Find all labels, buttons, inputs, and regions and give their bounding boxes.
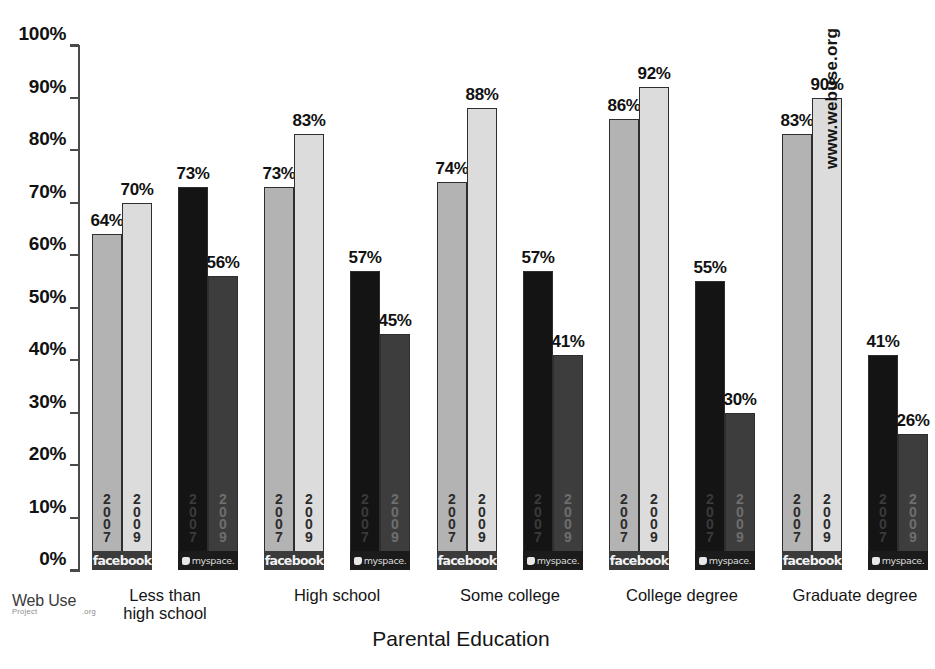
bar-value-label: 70%: [121, 180, 154, 200]
bar-value-label: 74%: [436, 159, 469, 179]
plot-area: 64%2 0 0 770%2 0 0 9facebook73%2 0 0 756…: [78, 45, 793, 570]
y-tick-label: 0%: [0, 548, 66, 570]
bar-facebook-2007[interactable]: 64%2 0 0 7: [92, 234, 122, 570]
logo-project-text: Project: [12, 607, 37, 616]
bar-value-label: 92%: [638, 64, 671, 84]
bar-myspace-2009[interactable]: 26%2 0 0 9: [898, 434, 928, 571]
website-watermark: www.webuse.org: [822, 28, 848, 169]
facebook-logo-text: facebook: [93, 553, 152, 568]
facebook-logo-text: facebook: [265, 553, 324, 568]
bar-value-label: 73%: [263, 164, 296, 184]
bar-year-label: 2 0 0 7: [265, 493, 293, 543]
y-tick-label-wrap: 80%: [0, 139, 66, 161]
bar-value-label: 88%: [466, 85, 499, 105]
y-tick-label: 70%: [0, 181, 66, 203]
bar-year-label: 2 0 0 9: [813, 493, 841, 543]
bar-myspace-2007[interactable]: 57%2 0 0 7: [350, 271, 380, 570]
y-tick-label: 90%: [0, 76, 66, 98]
y-tick-label: 10%: [0, 496, 66, 518]
y-tick-label: 30%: [0, 391, 66, 413]
myspace-logo-text: myspace.: [882, 555, 925, 566]
bar-year-label: 2 0 0 9: [209, 493, 237, 543]
bar-year-label: 2 0 0 7: [93, 493, 121, 543]
myspace-icon: [354, 557, 362, 565]
bar-myspace-2007[interactable]: 57%2 0 0 7: [523, 271, 553, 570]
bar-year-label: 2 0 0 9: [554, 493, 582, 543]
y-tick-label-wrap: 30%: [0, 402, 66, 424]
bar-value-label: 55%: [694, 258, 727, 278]
bar-value-label: 30%: [724, 390, 757, 410]
myspace-icon: [872, 557, 880, 565]
bar-facebook-2009[interactable]: 70%2 0 0 9: [122, 203, 152, 571]
y-tick-label-wrap: 60%: [0, 244, 66, 266]
bar-year-label: 2 0 0 9: [726, 493, 754, 543]
bar-year-label: 2 0 0 9: [381, 493, 409, 543]
myspace-logo-plate: myspace.: [350, 551, 410, 570]
bar-value-label: 57%: [522, 248, 555, 268]
bar-myspace-2009[interactable]: 41%2 0 0 9: [553, 355, 583, 570]
x-category-label: Graduate degree: [752, 586, 935, 604]
x-axis-title-text: Parental Education: [372, 627, 549, 651]
myspace-logo-plate: myspace.: [868, 551, 928, 570]
bar-year-label: 2 0 0 9: [295, 493, 323, 543]
bar-myspace-2007[interactable]: 41%2 0 0 7: [868, 355, 898, 570]
bar-myspace-2009[interactable]: 45%2 0 0 9: [380, 334, 410, 570]
bar-facebook-2009[interactable]: 92%2 0 0 9: [639, 87, 669, 570]
y-tick-label: 100%: [0, 23, 66, 45]
logo-org-text: .org: [82, 607, 96, 616]
y-tick-label-wrap: 90%: [0, 87, 66, 109]
myspace-logo-text: myspace.: [709, 555, 752, 566]
bar-value-label: 64%: [91, 211, 124, 231]
bar-year-label: 2 0 0 7: [179, 493, 207, 543]
bar-year-label: 2 0 0 9: [899, 493, 927, 543]
myspace-logo-plate: myspace.: [695, 551, 755, 570]
facebook-logo-plate: facebook: [437, 551, 497, 570]
myspace-logo-text: myspace.: [364, 555, 407, 566]
bar-facebook-2007[interactable]: 74%2 0 0 7: [437, 182, 467, 571]
bar-myspace-2009[interactable]: 30%2 0 0 9: [725, 413, 755, 571]
bar-myspace-2007[interactable]: 55%2 0 0 7: [695, 281, 725, 570]
bar-facebook-2007[interactable]: 73%2 0 0 7: [264, 187, 294, 570]
bar-value-label: 41%: [552, 332, 585, 352]
myspace-logo-plate: myspace.: [523, 551, 583, 570]
y-tick-label-wrap: 20%: [0, 454, 66, 476]
bar-year-label: 2 0 0 7: [351, 493, 379, 543]
facebook-logo-plate: facebook: [264, 551, 324, 570]
bar-value-label: 86%: [608, 96, 641, 116]
bar-facebook-2009[interactable]: 88%2 0 0 9: [467, 108, 497, 570]
y-tick-label: 50%: [0, 286, 66, 308]
facebook-logo-text: facebook: [610, 553, 669, 568]
bar-facebook-2007[interactable]: 83%2 0 0 7: [782, 134, 812, 570]
y-tick-label-wrap: 40%: [0, 349, 66, 371]
facebook-logo-text: facebook: [438, 553, 497, 568]
bar-year-label: 2 0 0 7: [438, 493, 466, 543]
bar-year-label: 2 0 0 7: [783, 493, 811, 543]
y-tick-label: 80%: [0, 128, 66, 150]
myspace-logo-text: myspace.: [537, 555, 580, 566]
bar-year-label: 2 0 0 7: [696, 493, 724, 543]
myspace-icon: [699, 557, 707, 565]
bar-myspace-2007[interactable]: 73%2 0 0 7: [178, 187, 208, 570]
bar-facebook-2009[interactable]: 83%2 0 0 9: [294, 134, 324, 570]
bar-myspace-2009[interactable]: 56%2 0 0 9: [208, 276, 238, 570]
y-tick-label-wrap: 70%: [0, 192, 66, 214]
myspace-logo-text: myspace.: [192, 555, 235, 566]
bar-year-label: 2 0 0 9: [468, 493, 496, 543]
bar-value-label: 57%: [349, 248, 382, 268]
x-axis-title: Parental Education: [0, 627, 850, 651]
bar-value-label: 56%: [207, 253, 240, 273]
y-tick-label: 20%: [0, 443, 66, 465]
bar-year-label: 2 0 0 7: [869, 493, 897, 543]
facebook-logo-plate: facebook: [92, 551, 152, 570]
y-tick-label-wrap: 100%: [0, 34, 66, 56]
webuse-project-logo: Web Use Project .org: [12, 592, 96, 616]
y-tick-label: 60%: [0, 233, 66, 255]
y-tick-label: 40%: [0, 338, 66, 360]
bar-value-label: 45%: [379, 311, 412, 331]
facebook-logo-text: facebook: [783, 553, 842, 568]
facebook-logo-plate: facebook: [609, 551, 669, 570]
bar-facebook-2007[interactable]: 86%2 0 0 7: [609, 119, 639, 571]
bar-year-label: 2 0 0 7: [524, 493, 552, 543]
bar-value-label: 83%: [293, 111, 326, 131]
